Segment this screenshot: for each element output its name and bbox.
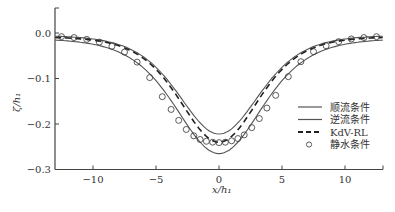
data-point — [235, 136, 241, 142]
data-point — [256, 116, 262, 122]
data-point — [264, 105, 270, 111]
legend-marker-icon — [306, 142, 311, 147]
data-point — [323, 43, 329, 49]
x-axis-label: x/h₁ — [212, 184, 231, 195]
legend-label: 顺流条件 — [330, 101, 370, 113]
chart: 0.0−0.1−0.2−0.3−10−50510 顺流条件逆流条件KdV-RL静… — [0, 0, 395, 212]
legend: 顺流条件逆流条件KdV-RL静水条件 — [298, 101, 370, 151]
x-tick-label: 0 — [216, 174, 222, 185]
data-point — [147, 75, 153, 81]
data-point — [176, 117, 182, 123]
data-point — [311, 49, 317, 55]
data-point — [203, 138, 209, 144]
legend-label: 逆流条件 — [330, 113, 370, 125]
data-point — [109, 43, 115, 49]
data-point — [229, 138, 235, 144]
data-point — [159, 94, 165, 100]
x-tick-label: −10 — [82, 174, 103, 185]
data-point — [249, 125, 255, 131]
y-axis-label: ζ/h₁ — [11, 93, 22, 112]
x-tick-label: −5 — [149, 174, 164, 185]
x-tick-label: 5 — [279, 174, 285, 185]
y-tick-label: −0.2 — [27, 119, 51, 130]
data-point — [273, 92, 279, 98]
y-tick-label: −0.1 — [27, 73, 51, 84]
data-point — [134, 59, 140, 65]
data-point — [168, 106, 174, 112]
data-point — [122, 49, 128, 55]
data-point — [183, 126, 189, 132]
y-tick-label: −0.3 — [27, 164, 51, 175]
x-tick-label: 10 — [339, 174, 352, 185]
legend-label: KdV-RL — [330, 127, 368, 138]
legend-label: 静水条件 — [330, 138, 370, 150]
y-tick-label: 0.0 — [35, 28, 51, 39]
axes: 0.0−0.1−0.2−0.3−10−50510 — [27, 8, 383, 185]
